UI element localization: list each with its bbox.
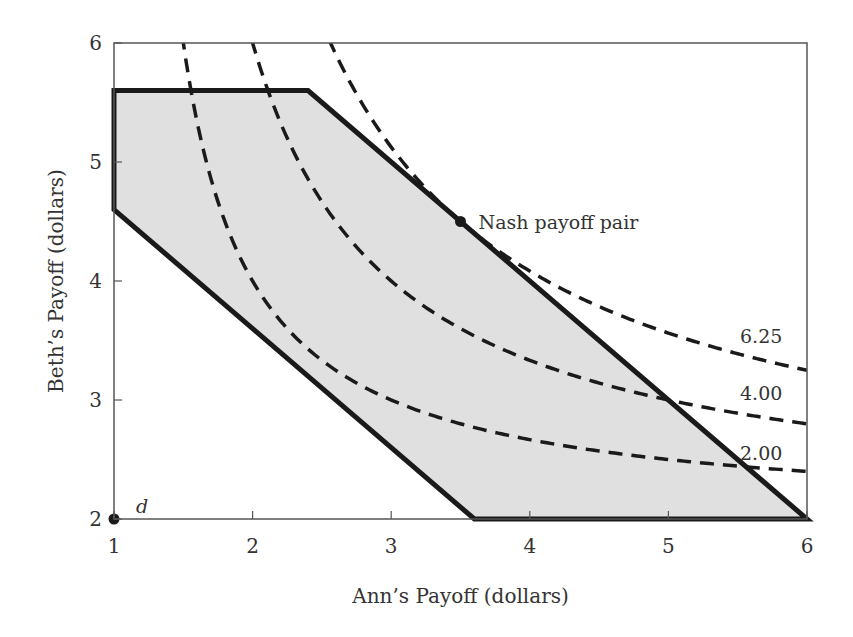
y-tick-label: 6 [89,31,102,55]
disagreement-point-label: d [136,495,148,517]
plot-area [109,0,808,525]
x-tick-label: 6 [801,534,814,558]
y-tick-label: 5 [89,150,102,174]
y-tick-label: 2 [89,507,102,531]
curve-label: 2.00 [740,442,782,464]
y-tick-label: 4 [89,269,102,293]
x-tick-label: 5 [662,534,675,558]
x-tick-label: 1 [108,534,121,558]
x-tick-label: 3 [385,534,398,558]
y-tick-label: 3 [89,388,102,412]
x-tick-label: 4 [523,534,536,558]
curve-label: 6.25 [740,325,782,347]
feasible-region [114,91,807,519]
nash-point-label: Nash payoff pair [479,211,640,233]
y-axis-title: Beth’s Payoff (dollars) [44,169,68,393]
point-nash-payoff-pair [455,216,466,227]
x-axis-title: Ann’s Payoff (dollars) [351,584,569,608]
x-tick-label: 2 [246,534,259,558]
curve-label: 4.00 [740,382,782,404]
bargaining-chart: 12345623456Ann’s Payoff (dollars)Beth’s … [0,0,853,637]
